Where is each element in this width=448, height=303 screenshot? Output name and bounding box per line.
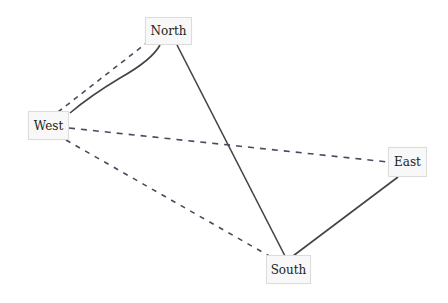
- node-east-label: East: [394, 155, 421, 169]
- edge-west-east[interactable]: [69, 128, 388, 162]
- node-south[interactable]: South: [266, 255, 311, 284]
- node-north[interactable]: North: [145, 17, 192, 45]
- edge-west-north-dashed[interactable]: [58, 38, 153, 112]
- node-south-label: South: [271, 263, 307, 277]
- edge-west-north-solid[interactable]: [70, 45, 160, 113]
- edge-north-south[interactable]: [177, 45, 285, 256]
- node-west-label: West: [34, 119, 63, 133]
- node-east[interactable]: East: [388, 147, 427, 177]
- node-west[interactable]: West: [28, 111, 69, 140]
- graph-canvas: [0, 0, 448, 303]
- edge-east-south[interactable]: [293, 177, 398, 256]
- node-north-label: North: [150, 24, 186, 38]
- edge-west-south[interactable]: [66, 140, 271, 257]
